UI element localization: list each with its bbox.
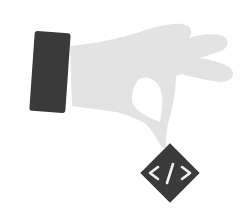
code-badge	[140, 143, 199, 202]
sleeve-cuff	[29, 31, 70, 113]
illustration-canvas	[0, 0, 247, 222]
hand-code-illustration	[0, 0, 247, 222]
hand-icon	[70, 24, 233, 148]
